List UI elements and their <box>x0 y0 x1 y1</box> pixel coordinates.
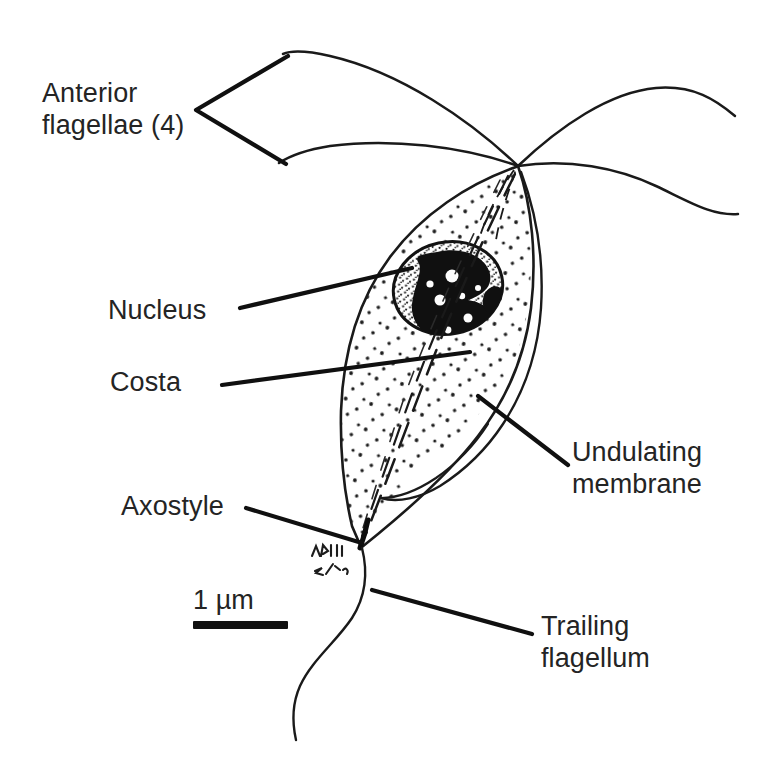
undulating-membrane-leader <box>478 396 568 465</box>
label-undulating-membrane: Undulating membrane <box>572 437 702 501</box>
label-anterior-flagellae: Anterior flagellae (4) <box>42 78 184 142</box>
flagellum-4 <box>518 163 738 214</box>
anterior-flagellae-bracket <box>196 56 288 164</box>
axostyle-leader <box>246 508 362 543</box>
scale-bar-label: 1 µm <box>193 585 254 617</box>
figure-canvas: Anterior flagellae (4) Nucleus Costa Und… <box>0 0 760 763</box>
artist-mark <box>312 545 348 575</box>
label-trailing-flagellum: Trailing flagellum <box>541 611 650 675</box>
scale-bar <box>193 621 288 629</box>
trailing-flagellum <box>293 548 365 740</box>
flagellum-2 <box>279 143 518 166</box>
label-nucleus: Nucleus <box>108 295 206 327</box>
label-axostyle: Axostyle <box>121 491 224 523</box>
label-costa: Costa <box>110 367 181 399</box>
trailing-flagellum-leader <box>372 590 532 634</box>
flagellum-3 <box>518 88 735 166</box>
